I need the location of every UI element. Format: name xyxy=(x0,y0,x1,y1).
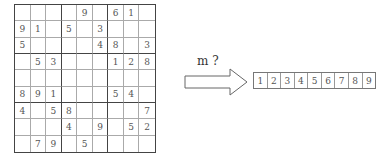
candidate-cell: 2 xyxy=(268,73,282,88)
sudoku-cell xyxy=(77,54,93,70)
arrow-label: m ? xyxy=(197,54,219,68)
sudoku-cell xyxy=(124,38,140,54)
sudoku-cell xyxy=(77,87,93,103)
sudoku-cell xyxy=(46,21,62,37)
candidate-cell: 6 xyxy=(322,73,336,88)
sudoku-cell xyxy=(62,87,78,103)
sudoku-cell: 9 xyxy=(46,136,62,152)
sudoku-cell xyxy=(124,21,140,37)
candidate-cell: 4 xyxy=(295,73,309,88)
sudoku-cell xyxy=(31,5,47,21)
sudoku-cell xyxy=(62,70,78,86)
sudoku-cell xyxy=(93,5,109,21)
sudoku-cell xyxy=(93,103,109,119)
sudoku-cell xyxy=(77,103,93,119)
sudoku-cell: 1 xyxy=(108,54,124,70)
sudoku-cell xyxy=(139,5,155,21)
sudoku-cell: 3 xyxy=(46,54,62,70)
candidate-cell: 7 xyxy=(335,73,349,88)
sudoku-cell: 1 xyxy=(46,87,62,103)
sudoku-cell xyxy=(62,136,78,152)
sudoku-cell: 5 xyxy=(124,119,140,135)
sudoku-cell: 5 xyxy=(15,38,31,54)
sudoku-cell: 8 xyxy=(62,103,78,119)
sudoku-cell: 5 xyxy=(62,21,78,37)
candidate-cell: 8 xyxy=(349,73,363,88)
candidate-cell: 9 xyxy=(363,73,376,88)
sudoku-cell: 2 xyxy=(139,119,155,135)
sudoku-cell xyxy=(15,119,31,135)
sudoku-cell xyxy=(15,70,31,86)
sudoku-cell: 4 xyxy=(93,38,109,54)
sudoku-cell: 4 xyxy=(124,87,140,103)
sudoku-cell: 7 xyxy=(139,103,155,119)
sudoku-cell xyxy=(93,136,109,152)
sudoku-cell xyxy=(108,136,124,152)
sudoku-cell xyxy=(46,70,62,86)
sudoku-cell xyxy=(77,70,93,86)
sudoku-cell xyxy=(77,119,93,135)
sudoku-cell: 1 xyxy=(31,21,47,37)
candidate-cell: 1 xyxy=(254,73,268,88)
sudoku-cell: 1 xyxy=(124,5,140,21)
sudoku-cell xyxy=(46,5,62,21)
sudoku-cell xyxy=(31,103,47,119)
sudoku-cell xyxy=(31,119,47,135)
sudoku-cell: 7 xyxy=(31,136,47,152)
sudoku-grid: 96191535483531288915445874952795 xyxy=(14,4,156,153)
sudoku-cell: 9 xyxy=(93,119,109,135)
sudoku-cell xyxy=(139,136,155,152)
sudoku-cell xyxy=(31,70,47,86)
sudoku-cell xyxy=(62,54,78,70)
candidate-row: 123456789 xyxy=(253,72,376,89)
sudoku-cell xyxy=(93,54,109,70)
sudoku-cell: 5 xyxy=(46,103,62,119)
sudoku-cell xyxy=(139,87,155,103)
sudoku-cell: 8 xyxy=(108,38,124,54)
sudoku-cell: 8 xyxy=(15,87,31,103)
sudoku-cell: 9 xyxy=(77,5,93,21)
sudoku-cell: 5 xyxy=(77,136,93,152)
sudoku-cell xyxy=(31,38,47,54)
sudoku-cell: 3 xyxy=(93,21,109,37)
sudoku-cell: 9 xyxy=(15,21,31,37)
right-arrow-icon xyxy=(184,68,248,96)
sudoku-cell xyxy=(108,21,124,37)
sudoku-cell xyxy=(62,38,78,54)
sudoku-cell: 6 xyxy=(108,5,124,21)
sudoku-cell: 4 xyxy=(62,119,78,135)
sudoku-cell: 5 xyxy=(31,54,47,70)
sudoku-cell xyxy=(93,70,109,86)
sudoku-cell xyxy=(46,119,62,135)
sudoku-cell: 5 xyxy=(108,87,124,103)
candidate-cell: 3 xyxy=(281,73,295,88)
sudoku-cell: 9 xyxy=(31,87,47,103)
sudoku-cell xyxy=(124,70,140,86)
sudoku-cell: 3 xyxy=(139,38,155,54)
sudoku-cell xyxy=(46,38,62,54)
sudoku-cell xyxy=(15,54,31,70)
candidate-cell: 5 xyxy=(308,73,322,88)
sudoku-cell xyxy=(124,103,140,119)
sudoku-cell xyxy=(124,136,140,152)
sudoku-cell xyxy=(108,119,124,135)
sudoku-cell: 2 xyxy=(124,54,140,70)
sudoku-cell: 4 xyxy=(15,103,31,119)
sudoku-cell xyxy=(77,38,93,54)
sudoku-cell xyxy=(93,87,109,103)
sudoku-cell xyxy=(108,103,124,119)
sudoku-cell xyxy=(108,70,124,86)
sudoku-cell: 8 xyxy=(139,54,155,70)
sudoku-cell xyxy=(77,21,93,37)
sudoku-cell xyxy=(139,21,155,37)
sudoku-cell xyxy=(139,70,155,86)
sudoku-cell xyxy=(15,5,31,21)
sudoku-cell xyxy=(62,5,78,21)
sudoku-cell xyxy=(15,136,31,152)
